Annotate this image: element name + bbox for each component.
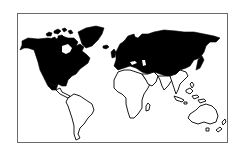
region-madagascar: [146, 103, 150, 111]
region-australia: [188, 104, 218, 124]
region-tasmania: [206, 128, 209, 131]
region-south-america: [66, 94, 94, 140]
region-central-america: [56, 88, 70, 98]
region-indonesia: [174, 88, 206, 104]
region-new-zealand: [216, 119, 226, 132]
region-north-america: [20, 36, 90, 86]
region-philippines: [190, 82, 194, 88]
world-map-frame: World map: [17, 13, 228, 143]
region-south-asia: [158, 76, 172, 90]
region-greenland: [78, 26, 104, 48]
region-uk: [111, 49, 116, 58]
region-iceland: [103, 45, 109, 49]
world-map: [18, 14, 229, 144]
